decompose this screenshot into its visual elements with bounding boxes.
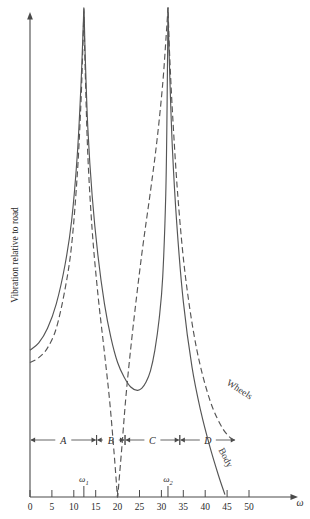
body-curve — [30, 8, 225, 495]
curve-group — [30, 8, 234, 497]
region-arrowhead — [126, 437, 131, 442]
region-arrowhead — [91, 437, 96, 442]
omega-label: ω1 — [79, 474, 89, 486]
x-tick-label: 10 — [69, 502, 79, 512]
region-arrowhead — [31, 437, 36, 442]
region-bar-group: ABCD — [31, 435, 236, 446]
omega-label: ω2 — [163, 474, 173, 486]
region-label-c: C — [149, 435, 156, 446]
wheels-curve-label: Wheels — [225, 378, 255, 402]
chart-canvas: 05101520253035404550 ω1ω2 ABCD Wheels Bo… — [0, 0, 310, 519]
body-curve-label: Body — [216, 446, 235, 469]
y-axis-arrowhead — [27, 12, 33, 20]
vibration-response-figure: 05101520253035404550 ω1ω2 ABCD Wheels Bo… — [0, 0, 310, 519]
region-arrowhead — [175, 437, 180, 442]
x-tick-group: 05101520253035404550 — [28, 490, 254, 512]
x-tick-label: 30 — [157, 502, 167, 512]
x-tick-label: 0 — [28, 502, 33, 512]
y-axis-title: Vibration relative to road — [10, 207, 20, 303]
x-tick-label: 50 — [244, 502, 254, 512]
region-label-a: A — [59, 435, 67, 446]
omega-marker-group: ω1ω2 — [79, 474, 173, 497]
x-axis-symbol: ω — [296, 497, 303, 508]
x-tick-label: 35 — [179, 502, 189, 512]
region-arrowhead — [180, 437, 185, 442]
wheels-curve — [30, 8, 234, 497]
x-tick-label: 5 — [50, 502, 55, 512]
x-tick-label: 20 — [113, 502, 123, 512]
x-tick-label: 40 — [200, 502, 210, 512]
x-tick-label: 25 — [135, 502, 145, 512]
x-tick-label: 15 — [91, 502, 101, 512]
x-tick-label: 45 — [222, 502, 232, 512]
region-arrowhead — [97, 437, 102, 442]
